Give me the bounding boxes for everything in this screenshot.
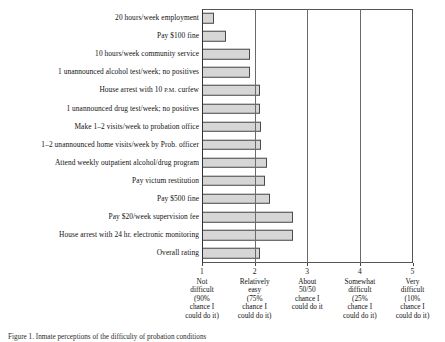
category-label: Attend weekly outpatient alcohol/drug pr…: [0, 159, 202, 167]
chart-row: 1–2 unannounced home visits/week by Prob…: [0, 136, 445, 154]
bar-track: [202, 136, 445, 154]
chart-row: Overall rating: [0, 244, 445, 262]
bar: [202, 49, 250, 60]
chart-row: Pay $500 fine: [0, 190, 445, 208]
bar: [202, 212, 293, 223]
chart-row: Make 1–2 visits/week to probation office: [0, 118, 445, 136]
bar-track: [202, 99, 445, 117]
gridline: [360, 9, 361, 263]
category-label: 20 hours/week employment: [0, 14, 202, 22]
category-label: Pay $500 fine: [0, 195, 202, 203]
axis-tick-number: 5: [383, 267, 443, 276]
chart-row: House arrest with 10 P.M. curfew: [0, 81, 445, 99]
axis-tick-description-line: could do it): [384, 312, 442, 321]
category-label: House arrest with 10 P.M. curfew: [0, 86, 202, 94]
category-label: Pay victum restitution: [0, 177, 202, 185]
axis-tick-number: 2: [225, 267, 285, 276]
axis-tick-description: Somewhatdifficult(25%chance Icould do it…: [331, 278, 389, 321]
axis-tick-number: 1: [172, 267, 232, 276]
chart-row: 1 unannounced alcohol test/week; no posi…: [0, 63, 445, 81]
bar-track: [202, 190, 445, 208]
chart-row: 20 hours/week employment: [0, 9, 445, 27]
x-axis: 1Notdifficult(90%chance Icould do it)2Re…: [0, 263, 445, 342]
bar-track: [202, 45, 445, 63]
gridline: [307, 9, 308, 263]
axis-tick-description: About50/50chance Icould do it: [278, 278, 336, 312]
axis-tick: [255, 263, 256, 267]
axis-tick: [413, 263, 414, 267]
chart-row: Pay victum restitution: [0, 172, 445, 190]
category-label: Overall rating: [0, 249, 202, 257]
bar-track: [202, 27, 445, 45]
bar-track: [202, 63, 445, 81]
chart-row: Pay $20/week supervision fee: [0, 208, 445, 226]
axis-tick-description-line: could do it): [331, 312, 389, 321]
chart-row: 10 hours/week community service: [0, 45, 445, 63]
category-label: 1 unannounced alcohol test/week; no posi…: [0, 68, 202, 76]
axis-tick-description: Relativelyeasy(75%chance Icould do it): [226, 278, 284, 321]
category-label: Make 1–2 visits/week to probation office: [0, 123, 202, 131]
bar-track: [202, 208, 445, 226]
figure-caption: Figure 1. Inmate perceptions of the diff…: [8, 333, 438, 341]
gridline: [255, 9, 256, 263]
bar: [202, 158, 267, 169]
axis-tick: [307, 263, 308, 267]
axis-tick-description-line: could do it: [278, 303, 336, 312]
chart-row: House arrest with 24 hr. electronic moni…: [0, 226, 445, 244]
bar-track: [202, 154, 445, 172]
bar: [202, 85, 260, 96]
bar-track: [202, 172, 445, 190]
bar-track: [202, 81, 445, 99]
bar: [202, 230, 293, 241]
chart-row: Pay $100 fine: [0, 27, 445, 45]
bar: [202, 194, 270, 205]
bar-track: [202, 118, 445, 136]
axis-tick: [360, 263, 361, 267]
bar-track: [202, 9, 445, 27]
axis-tick-number: 3: [277, 267, 337, 276]
category-label: House arrest with 24 hr. electronic moni…: [0, 231, 202, 239]
chart-rows: 20 hours/week employmentPay $100 fine10 …: [0, 9, 445, 262]
chart-row: 1 unannounced drug test/week; no positiv…: [0, 99, 445, 117]
category-label: 1–2 unannounced home visits/week by Prob…: [0, 141, 202, 149]
chart-row: Attend weekly outpatient alcohol/drug pr…: [0, 154, 445, 172]
bar: [202, 121, 261, 132]
axis-tick-description-line: could do it): [173, 312, 231, 321]
axis-tick-number: 4: [330, 267, 390, 276]
category-label: 10 hours/week community service: [0, 50, 202, 58]
bar-track: [202, 244, 445, 262]
category-label: 1 unannounced drug test/week; no positiv…: [0, 105, 202, 113]
axis-tick-description: Notdifficult(90%chance Icould do it): [173, 278, 231, 321]
bar: [202, 67, 250, 78]
bar: [202, 248, 260, 259]
figure-bar-chart: 20 hours/week employmentPay $100 fine10 …: [0, 0, 445, 342]
bar: [202, 103, 260, 114]
bar: [202, 13, 214, 24]
axis-tick: [202, 263, 203, 267]
bar: [202, 139, 261, 150]
bar: [202, 31, 226, 42]
bar-track: [202, 226, 445, 244]
bar: [202, 176, 265, 187]
axis-tick-description: Verydifficult(10%chance Icould do it): [384, 278, 442, 321]
axis-tick-description-line: could do it): [226, 312, 284, 321]
category-label: Pay $20/week supervision fee: [0, 213, 202, 221]
category-label: Pay $100 fine: [0, 32, 202, 40]
